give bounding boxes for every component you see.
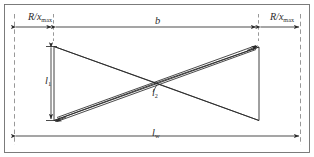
label-r-over-xmax-right-sub: max — [283, 16, 294, 23]
left-panel-outline — [54, 47, 156, 121]
label-r-over-xmax-left-sub: max — [41, 16, 52, 23]
label-r-over-xmax-left-main: R/x — [28, 11, 41, 22]
label-length-l2: l2 — [152, 88, 158, 98]
label-length-l1: l1 — [45, 76, 51, 87]
planform-outline — [54, 47, 259, 121]
label-length-lw: lw — [152, 128, 160, 139]
right-panel-outline — [156, 47, 259, 121]
brace-line-upper — [57, 46, 256, 118]
label-r-over-xmax-right-main: R/x — [270, 11, 283, 22]
label-r-over-xmax-left: R/xmax — [28, 12, 52, 22]
label-r-over-xmax-right: R/xmax — [270, 12, 294, 22]
label-span-b-main: b — [155, 15, 160, 26]
dashed-extension-lines — [15, 14, 301, 145]
label-length-lw-sub: w — [155, 132, 160, 139]
figure-container: R/xmax R/xmax b l1 l2 lw — [0, 0, 314, 157]
label-span-b: b — [155, 16, 160, 27]
label-length-l2-sub: 2 — [155, 92, 158, 99]
label-length-l1-sub: 1 — [48, 80, 51, 87]
